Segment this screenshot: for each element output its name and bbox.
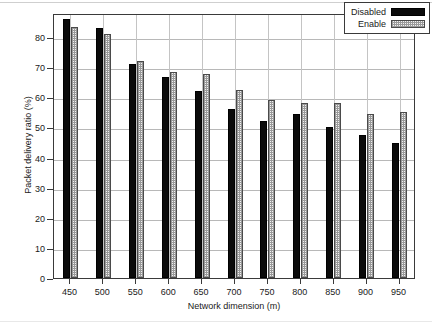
bar-enable-650: [203, 74, 210, 278]
bar-disabled-850: [326, 127, 333, 278]
bar-enable-500: [104, 34, 111, 278]
x-tick-mark: [234, 279, 235, 284]
y-tick-label: 20: [35, 215, 45, 224]
x-tick-mark: [168, 279, 169, 284]
bar-enable-750: [268, 100, 275, 278]
x-tick-mark: [201, 279, 202, 284]
y-tick-label: 10: [35, 245, 45, 254]
y-tick-label: 70: [35, 64, 45, 73]
bar-disabled-700: [228, 109, 235, 278]
bottom-divider: [0, 321, 432, 322]
chart-figure: 01020304050607080 4505005506006507007508…: [0, 0, 432, 323]
x-tick-mark: [399, 279, 400, 284]
plot-area: [53, 14, 415, 279]
legend-item-disabled: Disabled: [351, 6, 425, 18]
bar-enable-900: [367, 114, 374, 278]
x-tick-mark: [333, 279, 334, 284]
y-tick-label: 60: [35, 94, 45, 103]
bar-disabled-600: [162, 77, 169, 278]
x-tick-mark: [300, 279, 301, 284]
bar-disabled-750: [260, 121, 267, 278]
bar-disabled-900: [359, 135, 366, 278]
bar-enable-450: [71, 27, 78, 278]
x-tick-mark: [69, 279, 70, 284]
legend-swatch-enable: [391, 20, 425, 28]
bar-enable-850: [334, 103, 341, 278]
chart-legend: Disabled Enable: [344, 2, 430, 34]
x-axis-title: Network dimension (m): [53, 301, 415, 311]
x-tick-mark: [267, 279, 268, 284]
bar-disabled-450: [63, 19, 70, 278]
legend-label-disabled: Disabled: [351, 7, 386, 17]
bar-enable-700: [236, 90, 243, 278]
bar-disabled-500: [96, 28, 103, 278]
bar-disabled-650: [195, 91, 202, 278]
y-tick-label: 40: [35, 155, 45, 164]
y-tick-label: 0: [40, 275, 45, 284]
bar-disabled-950: [392, 143, 399, 279]
bar-enable-950: [400, 112, 407, 278]
legend-item-enable: Enable: [351, 18, 425, 30]
bar-enable-550: [137, 61, 144, 278]
legend-swatch-disabled: [391, 8, 425, 16]
x-tick-mark: [366, 279, 367, 284]
bar-enable-600: [170, 72, 177, 278]
legend-label-enable: Enable: [358, 19, 386, 29]
y-tick-label: 50: [35, 124, 45, 133]
bar-disabled-550: [129, 64, 136, 278]
y-tick-label: 30: [35, 185, 45, 194]
y-tick-mark: [47, 279, 53, 280]
x-tick-label: 950: [379, 287, 419, 297]
bar-enable-800: [301, 103, 308, 278]
bar-disabled-800: [293, 114, 300, 278]
x-tick-mark: [102, 279, 103, 284]
y-axis-title: Packet delivery ratio (%): [23, 5, 33, 285]
y-tick-label: 80: [35, 34, 45, 43]
x-tick-mark: [135, 279, 136, 284]
